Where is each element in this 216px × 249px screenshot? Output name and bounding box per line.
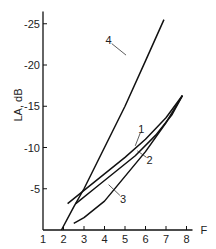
x-tick-label: 8 bbox=[183, 233, 189, 245]
y-tick-label: -15 bbox=[24, 100, 40, 112]
x-tick-label: 6 bbox=[142, 233, 148, 245]
y-tick-label: -5 bbox=[30, 183, 40, 195]
x-tick-label: 1 bbox=[40, 233, 46, 245]
x-axis-label: F bbox=[201, 224, 208, 236]
x-tick-label: 5 bbox=[122, 233, 128, 245]
y-tick-label: -25 bbox=[24, 18, 40, 30]
curve-label-1: 1 bbox=[138, 123, 144, 135]
series-line-3 bbox=[74, 96, 183, 224]
curve-label-4: 4 bbox=[106, 34, 112, 46]
y-tick-label: -20 bbox=[24, 59, 40, 71]
series-line-2 bbox=[76, 96, 183, 204]
x-tick-label: 7 bbox=[163, 233, 169, 245]
curve-label-2: 2 bbox=[147, 154, 153, 166]
y-tick-label: -10 bbox=[24, 142, 40, 154]
series-line-4 bbox=[61, 20, 164, 230]
chart: 12345678-5-10-15-20-25FLA, dB 1234 bbox=[0, 0, 216, 249]
x-tick-label: 4 bbox=[101, 233, 107, 245]
x-tick-label: 2 bbox=[60, 233, 66, 245]
curve-label-3: 3 bbox=[120, 193, 126, 205]
x-tick-label: 3 bbox=[81, 233, 87, 245]
y-axis-label: LA, dB bbox=[12, 88, 24, 121]
axes: 12345678-5-10-15-20-25FLA, dB bbox=[12, 11, 208, 245]
